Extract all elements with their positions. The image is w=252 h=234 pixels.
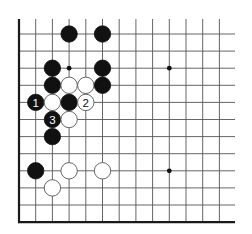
white-stone bbox=[44, 94, 60, 110]
black-stone-disc bbox=[94, 26, 110, 42]
white-stone-disc bbox=[61, 111, 77, 127]
star-point bbox=[67, 66, 72, 71]
white-stone-disc bbox=[78, 77, 94, 93]
white-stone: 2 bbox=[78, 94, 94, 110]
move-number-label: 3 bbox=[49, 114, 55, 126]
black-stone bbox=[94, 26, 110, 42]
white-stone bbox=[44, 180, 60, 196]
black-stone-disc bbox=[94, 60, 110, 76]
black-stone-disc bbox=[28, 163, 44, 179]
white-stone-disc bbox=[61, 77, 77, 93]
white-stone bbox=[94, 163, 110, 179]
go-board: 123 bbox=[0, 0, 252, 234]
black-stone-disc bbox=[44, 77, 60, 93]
star-point bbox=[167, 168, 172, 173]
star-point bbox=[167, 66, 172, 71]
black-stone bbox=[44, 60, 60, 76]
black-stone bbox=[94, 60, 110, 76]
white-stone-disc bbox=[44, 94, 60, 110]
black-stone bbox=[28, 163, 44, 179]
black-stone-disc bbox=[44, 60, 60, 76]
black-stone: 3 bbox=[44, 111, 60, 127]
white-stone-disc bbox=[94, 163, 110, 179]
move-number-label: 1 bbox=[32, 97, 38, 109]
white-stone bbox=[61, 111, 77, 127]
white-stone bbox=[61, 77, 77, 93]
black-stone-disc bbox=[61, 26, 77, 42]
black-stone-disc bbox=[61, 94, 77, 110]
white-stone-disc bbox=[44, 180, 60, 196]
black-stone-disc bbox=[94, 77, 110, 93]
black-stone bbox=[94, 77, 110, 93]
white-stone bbox=[61, 163, 77, 179]
white-stone bbox=[78, 77, 94, 93]
black-stone bbox=[61, 94, 77, 110]
white-stone-disc bbox=[61, 163, 77, 179]
move-number-label: 2 bbox=[83, 97, 89, 109]
black-stone bbox=[44, 128, 60, 144]
black-stone bbox=[61, 26, 77, 42]
black-stone bbox=[44, 77, 60, 93]
black-stone-disc bbox=[44, 128, 60, 144]
black-stone: 1 bbox=[28, 94, 44, 110]
